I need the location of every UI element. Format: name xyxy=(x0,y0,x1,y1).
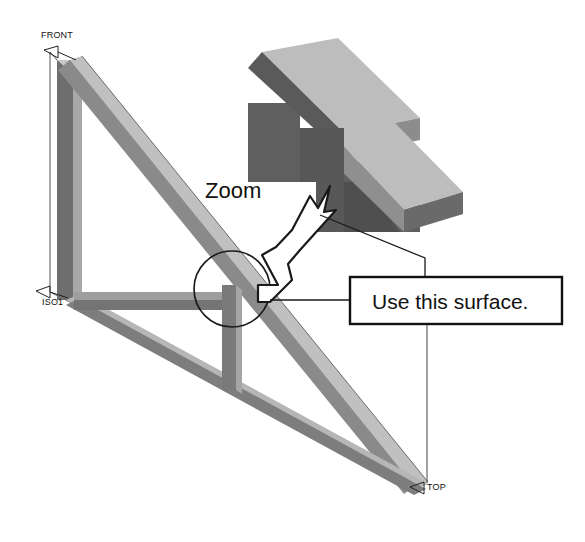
truss-center-post-side-face xyxy=(236,285,242,394)
truss-mid-chord-top-face xyxy=(74,292,236,300)
callout-box: Use this surface. xyxy=(350,277,562,324)
technical-figure: FRONT ISO1 TOP Zoom Use this s xyxy=(0,0,585,542)
top-view-label: TOP xyxy=(427,482,446,492)
truss-left-post-front-face xyxy=(57,60,73,300)
front-marker-leader xyxy=(58,52,76,60)
zoom-detail-inset xyxy=(248,38,463,232)
truss-mid-chord-front-face xyxy=(74,300,236,310)
front-view-label: FRONT xyxy=(41,30,73,40)
front-marker-triangle xyxy=(44,46,58,58)
callout-box-text: Use this surface. xyxy=(372,290,528,313)
truss-bottom-chord-dark-edge xyxy=(66,299,426,495)
figure-canvas: FRONT ISO1 TOP Zoom Use this s xyxy=(0,0,585,542)
iso-view-label: ISO1 xyxy=(42,297,63,307)
zoom-annotation-label: Zoom xyxy=(205,178,261,203)
truss-center-post-front-face xyxy=(222,285,236,390)
